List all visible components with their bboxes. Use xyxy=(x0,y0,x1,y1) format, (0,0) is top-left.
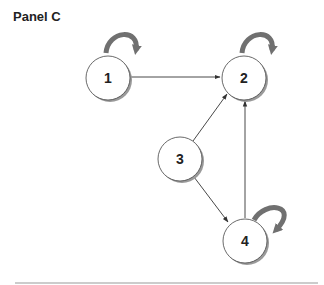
svg-text:4: 4 xyxy=(241,233,249,249)
node-2: 2 xyxy=(222,56,268,102)
node-3: 3 xyxy=(158,137,204,183)
self-loop-2 xyxy=(242,35,272,53)
node-4: 4 xyxy=(223,219,269,265)
edge-3-2 xyxy=(193,94,227,141)
graph-diagram: 1 2 3 4 xyxy=(0,0,324,285)
node-1: 1 xyxy=(86,56,132,102)
self-loop-1 xyxy=(106,35,136,53)
svg-text:3: 3 xyxy=(176,151,184,167)
edge-3-4 xyxy=(194,177,228,222)
svg-text:2: 2 xyxy=(240,70,248,86)
svg-text:1: 1 xyxy=(104,70,112,86)
